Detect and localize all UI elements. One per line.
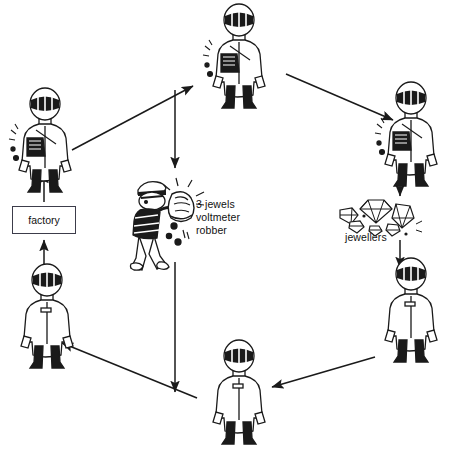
diagram-canvas: factory 3 jewels voltmeter robber jewell…	[0, 0, 453, 463]
courier-top-figure[interactable]	[196, 2, 282, 114]
factory-node[interactable]: factory	[12, 206, 76, 234]
courier-left-figure[interactable]	[2, 86, 88, 198]
courier-lower-right-figure[interactable]	[368, 256, 453, 368]
edge-lowerright-to-bottom	[272, 357, 375, 387]
factory-label: factory	[28, 214, 60, 226]
courier-right-figure[interactable]	[368, 80, 453, 192]
robber-figure[interactable]	[126, 170, 210, 274]
courier-lower-left-figure[interactable]	[4, 262, 90, 374]
gem-cluster-icon	[330, 194, 426, 242]
courier-bottom-figure[interactable]	[196, 338, 282, 450]
